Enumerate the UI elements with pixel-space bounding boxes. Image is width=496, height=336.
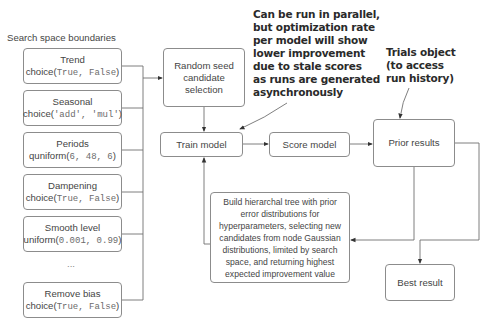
prior-results-node: Prior results xyxy=(373,119,455,167)
random-seed-node: Random seed candidate selection xyxy=(163,48,245,107)
param-args: 0.001, 0.99 xyxy=(59,236,118,246)
node-text: expected improvement value xyxy=(225,268,335,280)
param-name: Trend xyxy=(60,54,85,66)
param-name: Seasonal xyxy=(52,96,92,108)
param-close: ) xyxy=(113,150,116,161)
param-args: True, False xyxy=(57,68,116,78)
param-func: quniform( xyxy=(29,150,70,161)
param-name: Periods xyxy=(56,138,89,150)
node-text: distributions, limited by search xyxy=(222,244,337,256)
score-model-node: Score model xyxy=(269,132,350,157)
node-text: candidates from node Gaussian xyxy=(219,232,340,244)
param-args: True, False xyxy=(57,302,116,312)
param-box-smooth-level: Smooth level uniform(0.001, 0.99) xyxy=(23,216,122,252)
parallel-annotation: Can be run in parallel, but optimization… xyxy=(253,8,380,99)
node-text: hyperparameters, selecting new xyxy=(219,220,341,232)
param-box-dampening: Dampening choice(True, False) xyxy=(23,174,122,210)
param-func: choice( xyxy=(26,300,57,311)
node-text: candidate xyxy=(183,72,225,84)
param-close: ) xyxy=(116,300,119,311)
param-close: ) xyxy=(118,234,121,245)
param-args: True, False xyxy=(57,194,116,204)
param-box-remove-bias: Remove bias choice(True, False) xyxy=(23,282,122,318)
param-close: ) xyxy=(116,192,119,203)
node-text: Train model xyxy=(176,139,226,151)
node-text: space, and returning highest xyxy=(226,256,334,268)
param-box-trend: Trend choice(True, False) xyxy=(23,48,122,84)
train-model-node: Train model xyxy=(160,132,243,157)
node-text: Best result xyxy=(397,277,442,289)
trials-annotation: Trials object (to access run history) xyxy=(386,46,455,85)
param-close: ) xyxy=(116,66,119,77)
best-result-node: Best result xyxy=(385,264,455,301)
param-func: choice( xyxy=(26,192,57,203)
node-text: Build hierarchal tree with prior xyxy=(223,196,337,208)
param-func: choice( xyxy=(23,108,54,119)
param-name: Remove bias xyxy=(45,288,101,300)
param-args: 'add', 'mul' xyxy=(54,110,119,120)
node-text: selection xyxy=(185,84,223,96)
param-func: choice( xyxy=(26,66,57,77)
param-close: ) xyxy=(119,108,122,119)
node-text: Random seed xyxy=(174,60,234,72)
param-name: Dampening xyxy=(48,180,97,192)
node-text: Prior results xyxy=(388,137,439,149)
build-tree-node: Build hierarchal tree with prior error d… xyxy=(210,192,350,283)
param-box-periods: Periods quniform(6, 48, 6) xyxy=(23,132,122,168)
param-name: Smooth level xyxy=(45,222,100,234)
search-space-title: Search space boundaries xyxy=(7,32,116,43)
ellipsis: ... xyxy=(67,258,75,269)
param-args: 6, 48, 6 xyxy=(70,152,113,162)
param-func: uniform( xyxy=(24,234,59,245)
node-text: error distributions for xyxy=(241,208,320,220)
param-box-seasonal: Seasonal choice('add', 'mul') xyxy=(23,90,122,126)
node-text: Score model xyxy=(283,139,337,151)
